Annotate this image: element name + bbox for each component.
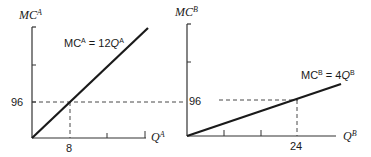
panel-a: MCA MCA = 12QA 96 8 QA: [11, 8, 185, 154]
y-tick-label-b-96: 96: [189, 95, 201, 107]
x-axis-label-b: QB: [343, 129, 357, 143]
y-tick-label-a-96: 96: [11, 96, 23, 108]
y-axis-label-a: MCA: [18, 8, 42, 22]
y-axis-label-b: MCB: [174, 5, 198, 19]
panel-b: MCB MCB = 4QB 96 24 QB: [174, 5, 357, 152]
x-tick-label-a-8: 8: [66, 142, 72, 154]
mc-b-line: [187, 84, 341, 136]
marginal-cost-diagram: MCA MCA = 12QA 96 8 QA MCB MCB = 4QB: [0, 0, 371, 157]
equation-b: MCB = 4QB: [301, 69, 355, 81]
x-axis-label-a: QA: [151, 130, 165, 144]
x-tick-label-b-24: 24: [290, 140, 302, 152]
equation-a: MCA = 12QA: [64, 37, 124, 49]
